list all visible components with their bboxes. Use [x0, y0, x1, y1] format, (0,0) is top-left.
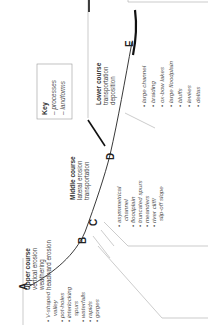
point-e-label: E	[124, 40, 135, 47]
svg-text:• interlocking: • interlocking	[65, 286, 72, 322]
middle-course-title: Middle course	[69, 156, 76, 200]
svg-text:• large floodplain: • large floodplain	[167, 61, 174, 107]
svg-text:• meanders: • meanders	[143, 196, 150, 227]
svg-text:• river cliff/: • river cliff/	[150, 197, 157, 227]
process-text: vertical erosion	[31, 247, 38, 290]
landform-text: spurs	[72, 301, 79, 316]
point-b-label: B	[77, 237, 88, 244]
bc-divider-1	[101, 230, 114, 246]
key-item-landforms: – landforms	[59, 80, 66, 116]
lower-course-processes: Lower course transportation deposition	[95, 62, 117, 105]
process-text: transportation	[83, 161, 91, 200]
svg-text:• gorges: • gorges	[93, 299, 100, 322]
svg-text:• rapids: • rapids	[86, 301, 93, 322]
landform-text: braiding	[149, 81, 156, 104]
middle-course-processes: Middle course lateral erosion transporta…	[69, 156, 91, 200]
svg-text:• large channel: • large channel	[140, 65, 147, 107]
point-c-label: C	[88, 219, 99, 226]
point-d-label: D	[105, 153, 116, 160]
svg-text:• levées: • levées	[185, 85, 192, 107]
d-divider	[125, 113, 155, 128]
landform-text: channel	[122, 199, 129, 221]
landform-text: rapids	[86, 301, 93, 318]
landform-text: interlocking	[65, 286, 72, 318]
upper-course-bracket-long	[98, 246, 208, 318]
landform-text: gorges	[93, 299, 100, 318]
landform-text: ox-bow lakes	[158, 67, 165, 103]
upper-course-processes: Upper course vertical erosion weathering…	[24, 239, 52, 291]
lower-course-bracket-right	[128, 0, 208, 2]
svg-text:• pot-holes: • pot-holes	[58, 293, 65, 322]
key-item-processes: – processes	[50, 79, 58, 116]
lower-course-landforms: • large channel • braiding • ox-bow lake…	[140, 61, 201, 107]
river-profile-diagram: Key – processes – landforms A B C D E Up…	[0, 0, 208, 325]
landform-text: V-shaped	[44, 291, 51, 318]
landform-text: meanders	[143, 196, 150, 224]
upper-course-landforms: • V-shaped valley • pot-holes • interloc…	[44, 286, 100, 322]
svg-text:• waterfalls: • waterfalls	[79, 292, 86, 322]
landform-text: valley	[51, 299, 58, 316]
key-title: Key	[41, 102, 49, 115]
process-text: headward erosion	[45, 239, 52, 290]
process-text: deposition	[109, 76, 117, 105]
landform-text: waterfalls	[79, 292, 86, 318]
middle-course-thick-line	[88, 120, 105, 146]
landform-text: deltas	[194, 87, 201, 104]
middle-course-landforms: • asymmetrical channel • floodplain • tr…	[115, 180, 164, 227]
svg-text:• truncated spurs: • truncated spurs	[136, 180, 143, 227]
landform-text: slip-off slope	[157, 186, 164, 221]
landform-text: truncated spurs	[136, 180, 143, 223]
svg-text:• asymmetrical: • asymmetrical	[115, 186, 122, 227]
landform-text: river cliff/	[150, 197, 157, 223]
svg-text:• deltas: • deltas	[194, 87, 201, 107]
key: Key – processes – landforms	[41, 79, 66, 116]
lower-course-thick-line	[133, 10, 136, 55]
svg-text:• bluffs: • bluffs	[176, 88, 183, 107]
svg-text:• V-shaped: • V-shaped	[44, 291, 51, 322]
process-text: lateral erosion	[76, 160, 83, 200]
landform-text: large floodplain	[167, 61, 174, 104]
svg-text:• ox-bow lakes: • ox-bow lakes	[158, 67, 165, 107]
svg-text:• floodplain: • floodplain	[129, 196, 136, 227]
landform-text: asymmetrical	[115, 186, 122, 223]
landform-text: large channel	[140, 65, 147, 103]
bc-divider-2	[93, 236, 110, 258]
landform-text: bluffs	[176, 88, 183, 103]
landform-text: pot-holes	[58, 293, 65, 319]
svg-text:• braiding: • braiding	[149, 81, 156, 107]
landform-text: floodplain	[129, 196, 136, 223]
landform-text: levées	[185, 85, 192, 103]
lower-course-title: Lower course	[95, 62, 102, 105]
